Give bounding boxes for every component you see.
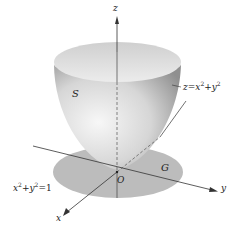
paraboloid-rim <box>54 42 181 82</box>
region-label: G <box>161 163 169 173</box>
x-axis-label: x <box>56 214 61 223</box>
origin-label: O <box>117 176 124 185</box>
z-axis-arrow-icon <box>115 16 119 24</box>
surface-equation: z=x2+y2 <box>183 81 221 92</box>
origin-point <box>116 171 118 173</box>
paraboloid-diagram <box>0 0 243 233</box>
y-axis-arrow-icon <box>209 187 218 192</box>
region-boundary-equation: x2+y2=1 <box>13 182 52 193</box>
x-axis-arrow-icon <box>63 208 70 216</box>
surface-label: S <box>72 89 79 99</box>
z-axis-label: z <box>113 4 118 13</box>
y-axis-label: y <box>221 184 226 193</box>
